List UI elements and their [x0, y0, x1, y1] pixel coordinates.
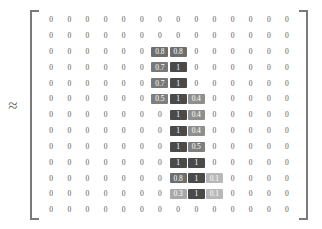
matrix-cell-value: 0 [260, 78, 277, 88]
matrix-cell-zero: 0 [223, 60, 241, 76]
matrix-cell-zero: 0 [205, 12, 223, 28]
matrix-cell-zero: 0 [42, 107, 60, 123]
matrix-cell-zero: 0 [242, 186, 260, 202]
matrix-cell-zero: 0 [278, 60, 296, 76]
matrix-cell-zero: 0 [133, 170, 151, 186]
matrix-cell-zero: 0 [260, 123, 278, 139]
matrix-cell-zero: 0 [223, 139, 241, 155]
matrix-cell-zero: 0 [96, 139, 114, 155]
matrix-cell-zero: 0 [133, 60, 151, 76]
matrix-cell-zero: 0 [278, 155, 296, 171]
matrix-cell-zero: 0 [60, 123, 78, 139]
matrix-cell-value: 0 [278, 78, 295, 88]
matrix-cell-value: 0 [278, 173, 295, 183]
matrix-cell-zero: 0 [260, 44, 278, 60]
matrix-cell-zero: 0 [169, 12, 187, 28]
matrix-cell-value: 0.4 [188, 110, 205, 120]
matrix-cell-value: 0 [260, 47, 277, 57]
matrix-cell-zero: 0 [133, 202, 151, 218]
matrix-cell-value: 0 [242, 158, 259, 168]
matrix-cell-zero: 0 [96, 170, 114, 186]
matrix-cell-value: 0.1 [206, 189, 223, 199]
matrix-cell-value: 0 [206, 31, 223, 41]
matrix-cell-value: 1 [170, 62, 187, 72]
matrix-cell-zero: 0 [205, 91, 223, 107]
matrix-cell-filled: 0.5 [187, 139, 205, 155]
matrix-cell-value: 0 [278, 126, 295, 136]
matrix-cell-value: 0 [278, 110, 295, 120]
matrix-cell-value: 0 [61, 31, 78, 41]
matrix-cell-value: 0 [224, 31, 241, 41]
matrix-cell-value: 0 [97, 94, 114, 104]
matrix-cell-value: 0 [224, 110, 241, 120]
matrix-cell-zero: 0 [60, 44, 78, 60]
matrix-cell-value: 0 [133, 47, 150, 57]
matrix-cell-zero: 0 [223, 91, 241, 107]
matrix-cell-zero: 0 [42, 91, 60, 107]
matrix-cell-value: 0 [278, 15, 295, 25]
matrix-cell-zero: 0 [60, 202, 78, 218]
matrix-cell-zero: 0 [115, 91, 133, 107]
matrix-cell-value: 0.8 [151, 47, 168, 57]
matrix-cell-zero: 0 [115, 44, 133, 60]
matrix-cell-zero: 0 [278, 44, 296, 60]
matrix-cell-value: 0 [188, 78, 205, 88]
matrix-cell-zero: 0 [205, 60, 223, 76]
matrix-cell-value: 0 [115, 158, 132, 168]
matrix-cell-value: 0 [206, 62, 223, 72]
matrix-cell-value: 0 [79, 94, 96, 104]
matrix-cell-zero: 0 [242, 28, 260, 44]
matrix-cell-value: 0 [242, 126, 259, 136]
left-bracket-icon [30, 10, 39, 220]
matrix-cell-zero: 0 [78, 170, 96, 186]
matrix-cell-zero: 0 [242, 170, 260, 186]
matrix-cell-zero: 0 [115, 170, 133, 186]
matrix-cell-value: 0.7 [151, 62, 168, 72]
matrix-cell-zero: 0 [205, 107, 223, 123]
matrix-cell-value: 0 [79, 78, 96, 88]
matrix-cell-zero: 0 [96, 91, 114, 107]
matrix-cell-zero: 0 [60, 107, 78, 123]
matrix-cell-zero: 0 [60, 139, 78, 155]
matrix-cell-value: 0 [43, 126, 60, 136]
matrix-cell-value: 0 [133, 15, 150, 25]
matrix-cell-value: 0 [151, 189, 168, 199]
matrix-cell-value: 0 [242, 142, 259, 152]
matrix-cell-value: 0 [97, 47, 114, 57]
matrix-cell-zero: 0 [242, 44, 260, 60]
matrix-cell-value: 0 [260, 31, 277, 41]
matrix-cell-zero: 0 [78, 28, 96, 44]
matrix-cell-zero: 0 [223, 123, 241, 139]
matrix-cell-zero: 0 [205, 155, 223, 171]
matrix-cell-value: 0 [79, 110, 96, 120]
matrix-cell-zero: 0 [42, 75, 60, 91]
matrix-cell-value: 0 [242, 31, 259, 41]
matrix-cell-zero: 0 [133, 123, 151, 139]
matrix-cell-value: 0 [260, 110, 277, 120]
matrix-cell-value: 0.8 [170, 173, 187, 183]
matrix-cell-zero: 0 [187, 75, 205, 91]
matrix-cell-value: 0 [61, 110, 78, 120]
matrix-cell-filled: 0.1 [205, 186, 223, 202]
matrix-cell-zero: 0 [151, 107, 169, 123]
matrix-cell-value: 0 [79, 31, 96, 41]
matrix-cell-filled: 0.7 [151, 75, 169, 91]
matrix-cell-value: 0 [79, 62, 96, 72]
matrix-cell-zero: 0 [78, 91, 96, 107]
matrix-cell-zero: 0 [78, 44, 96, 60]
matrix-cell-value: 0.4 [188, 94, 205, 104]
matrix-cell-value: 0 [242, 78, 259, 88]
matrix-cell-value: 0 [97, 142, 114, 152]
matrix-cell-zero: 0 [115, 12, 133, 28]
matrix-cell-zero: 0 [78, 75, 96, 91]
matrix-cell-zero: 0 [187, 202, 205, 218]
matrix-cell-value: 0 [61, 78, 78, 88]
matrix-cell-zero: 0 [223, 44, 241, 60]
matrix-cell-value: 0 [61, 94, 78, 104]
matrix-cell-value: 0 [151, 205, 168, 215]
matrix-cell-value: 0 [61, 189, 78, 199]
matrix-cell-zero: 0 [151, 155, 169, 171]
matrix-cell-filled: 0.3 [169, 186, 187, 202]
matrix-cell-zero: 0 [96, 12, 114, 28]
matrix-cell-value: 1 [170, 158, 187, 168]
